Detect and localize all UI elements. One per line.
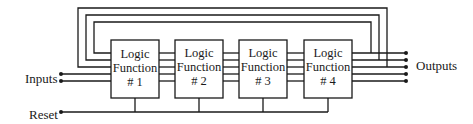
logic-function-label-1: Logic Function # 1 xyxy=(111,47,159,89)
bus-3-4 xyxy=(287,53,304,81)
logic-function-label-2: Logic Function # 2 xyxy=(175,46,223,88)
output-terminal-3 xyxy=(404,65,408,69)
block-diagram xyxy=(0,0,473,124)
reset-terminal xyxy=(59,110,63,114)
input-terminal-2 xyxy=(59,79,63,83)
output-terminal-2 xyxy=(404,58,408,62)
input-terminal-1 xyxy=(59,72,63,76)
logic-function-label-4: Logic Function # 4 xyxy=(304,46,352,88)
outputs-label: Outputs xyxy=(416,59,457,72)
logic-function-label-3: Logic Function # 3 xyxy=(239,46,287,88)
output-terminal-5 xyxy=(404,79,408,83)
bus-1-2 xyxy=(159,53,175,81)
bus-2-3 xyxy=(223,53,239,81)
reset-label: Reset xyxy=(29,108,58,121)
output-terminal-1 xyxy=(404,51,408,55)
output-terminal-4 xyxy=(404,72,408,76)
inputs-label: Inputs xyxy=(25,72,58,85)
